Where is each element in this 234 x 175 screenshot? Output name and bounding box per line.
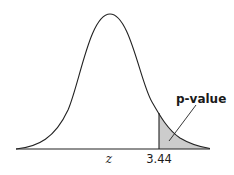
z-axis-label: z [105, 152, 113, 166]
test-statistic-label: 3.44 [146, 152, 172, 166]
annotation-leader-line [169, 105, 196, 141]
normal-curve [16, 14, 210, 149]
normal-curve-chart: p-value z 3.44 [0, 0, 234, 175]
p-value-label: p-value [176, 92, 226, 106]
p-value-shaded-area [159, 113, 210, 149]
